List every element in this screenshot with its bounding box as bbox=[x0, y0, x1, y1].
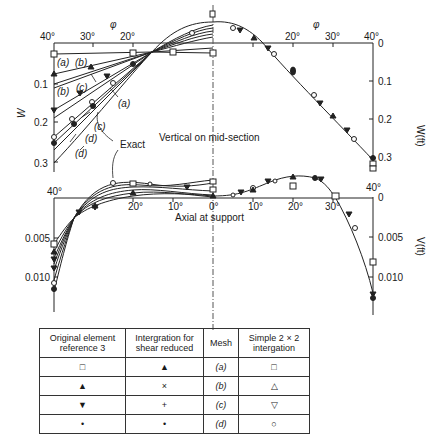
axial-support-label: Axial at support bbox=[175, 212, 244, 223]
svg-text:20°: 20° bbox=[128, 201, 143, 212]
svg-text:20°: 20° bbox=[285, 31, 300, 42]
w-axis-label-left: W bbox=[16, 107, 27, 118]
svg-text:40°: 40° bbox=[47, 186, 62, 197]
svg-text:0.005: 0.005 bbox=[25, 233, 50, 244]
svg-text:0: 0 bbox=[378, 192, 384, 203]
exact-label: Exact bbox=[120, 139, 145, 150]
svg-text:0.3: 0.3 bbox=[378, 152, 392, 163]
svg-text:0.3: 0.3 bbox=[34, 158, 48, 169]
w-axis-label-right: W(ft) bbox=[415, 125, 426, 147]
svg-text:30°: 30° bbox=[325, 201, 340, 212]
legend-row: ▲ × (b) △ bbox=[40, 377, 310, 396]
header-mesh: Mesh bbox=[204, 329, 239, 358]
svg-text:0.005: 0.005 bbox=[378, 232, 403, 243]
svg-text:0.1: 0.1 bbox=[378, 76, 392, 87]
svg-text:(c): (c) bbox=[76, 82, 88, 93]
phi-label-upper-left: φ bbox=[110, 19, 117, 30]
svg-text:0.010: 0.010 bbox=[378, 272, 403, 283]
svg-text:30°: 30° bbox=[325, 31, 340, 42]
svg-text:(d): (d) bbox=[75, 148, 87, 159]
legend-header-row: Original elementreference 3 Intergration… bbox=[40, 329, 310, 358]
header-simple: Simple 2 × 2intergation bbox=[239, 329, 310, 358]
legend-row: • • (d) ○ bbox=[40, 415, 310, 434]
svg-text:10°: 10° bbox=[168, 201, 183, 212]
svg-text:0.2: 0.2 bbox=[34, 117, 48, 128]
svg-text:40°: 40° bbox=[364, 31, 379, 42]
exact-curve-lower-right bbox=[213, 176, 373, 293]
svg-text:0.010: 0.010 bbox=[25, 272, 50, 283]
upper-chart-text: φ φ 40° 30° 20° 20° 30° 40° 0.1 0.2 0.3 … bbox=[16, 19, 426, 169]
svg-text:(b): (b) bbox=[75, 57, 87, 68]
svg-text:20°: 20° bbox=[288, 201, 303, 212]
phi-label-upper-right: φ bbox=[313, 19, 320, 30]
legend-row: ▼ + (c) ▽ bbox=[40, 396, 310, 415]
v-axis-label-right: V(ft) bbox=[415, 237, 426, 256]
svg-text:0.2: 0.2 bbox=[378, 114, 392, 125]
svg-text:20°: 20° bbox=[120, 31, 135, 42]
svg-text:(a): (a) bbox=[57, 57, 69, 68]
svg-text:10°: 10° bbox=[248, 201, 263, 212]
header-shear-reduced: Intergration forshear reduced bbox=[126, 329, 204, 358]
svg-text:30°: 30° bbox=[80, 31, 95, 42]
legend-row: □ ▲ (a) □ bbox=[40, 358, 310, 377]
svg-text:0: 0 bbox=[378, 38, 384, 49]
svg-text:40°: 40° bbox=[40, 31, 55, 42]
svg-text:(d): (d) bbox=[85, 133, 97, 144]
header-original: Original elementreference 3 bbox=[40, 329, 126, 358]
vertical-mid-label: Vertical on mid-section bbox=[159, 132, 260, 143]
svg-text:(c): (c) bbox=[94, 121, 106, 132]
legend-table: Original elementreference 3 Intergration… bbox=[39, 328, 310, 434]
svg-text:(a): (a) bbox=[118, 98, 130, 109]
exact-leader-down bbox=[113, 150, 118, 178]
svg-text:(b): (b) bbox=[57, 86, 69, 97]
svg-text:0.1: 0.1 bbox=[34, 79, 48, 90]
